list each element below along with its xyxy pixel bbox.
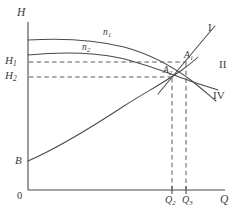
level-label-h2: H2 [5, 70, 17, 81]
branch-label-ii: II [219, 59, 226, 70]
tick-label-q3-sub: 3 [189, 199, 192, 206]
point-label-b: B [15, 155, 22, 166]
level-label-h1-main: H [5, 54, 13, 66]
x-axis-label: Q [220, 194, 228, 206]
point-label-a1-sub: 1 [190, 54, 193, 61]
curve-label-n1: n1 [103, 28, 111, 38]
point-label-a1-main: A [184, 50, 190, 60]
point-label-a2-main: A [163, 65, 169, 75]
point-label-a2: A2 [163, 66, 172, 76]
pump-curve-figure: H Q 0 H1 H2 n1 n2 A1 A2 I II IV B Q2 Q3 [0, 0, 238, 218]
curve-n1 [28, 39, 216, 101]
branch-label-iv: IV [213, 90, 225, 101]
level-label-h2-sub: 2 [13, 74, 17, 83]
point-label-a1: A1 [184, 51, 193, 61]
tick-label-q2: Q2 [165, 195, 176, 205]
curve-label-n2: n2 [82, 43, 90, 53]
level-label-h1: H1 [5, 55, 17, 66]
level-label-h1-sub: 1 [13, 59, 17, 68]
tick-label-q2-sub: 2 [172, 199, 175, 206]
curve-label-n1-sub: 1 [108, 31, 111, 38]
figure-canvas [0, 0, 238, 218]
branch-label-i: I [208, 22, 212, 33]
level-label-h2-main: H [5, 69, 13, 81]
origin-label: 0 [17, 191, 22, 202]
y-axis-label: H [17, 7, 25, 19]
curve-label-n2-sub: 2 [87, 46, 90, 53]
tick-label-q3: Q3 [182, 195, 193, 205]
point-label-a2-sub: 2 [169, 69, 172, 76]
